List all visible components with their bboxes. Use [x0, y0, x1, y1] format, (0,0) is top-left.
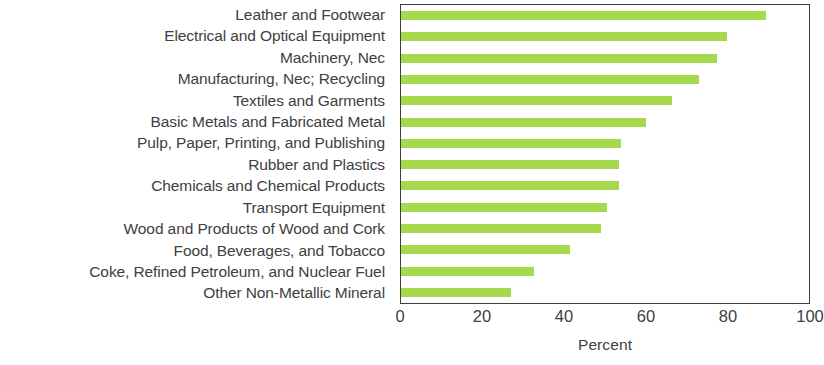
x-axis-title: Percent	[400, 336, 810, 354]
category-label: Leather and Footwear	[0, 4, 393, 25]
bar	[401, 203, 607, 212]
bar	[401, 32, 727, 41]
x-tick-label: 40	[555, 307, 573, 326]
bar	[401, 288, 511, 297]
x-axis-ticks: 020406080100	[400, 304, 810, 332]
bar-row	[401, 48, 809, 69]
category-label: Chemicals and Chemical Products	[0, 175, 393, 196]
bar-row	[401, 197, 809, 218]
bar	[401, 118, 646, 127]
bar-row	[401, 154, 809, 175]
category-label: Coke, Refined Petroleum, and Nuclear Fue…	[0, 261, 393, 282]
category-label: Other Non-Metallic Mineral	[0, 282, 393, 303]
x-tick-label: 100	[796, 307, 824, 326]
bar-row	[401, 26, 809, 47]
bar-row	[401, 133, 809, 154]
category-label: Machinery, Nec	[0, 47, 393, 68]
category-label: Transport Equipment	[0, 197, 393, 218]
category-label: Pulp, Paper, Printing, and Publishing	[0, 133, 393, 154]
category-label-column: Leather and Footwear Electrical and Opti…	[0, 4, 393, 304]
bar	[401, 54, 717, 63]
bar-row	[401, 175, 809, 196]
category-label: Manufacturing, Nec; Recycling	[0, 68, 393, 89]
bar	[401, 267, 534, 276]
bar-row	[401, 90, 809, 111]
category-label: Wood and Products of Wood and Cork	[0, 218, 393, 239]
category-label: Textiles and Garments	[0, 90, 393, 111]
bar	[401, 224, 601, 233]
bar	[401, 139, 621, 148]
bar	[401, 245, 570, 254]
bar-chart-figure: Leather and Footwear Electrical and Opti…	[0, 0, 824, 365]
bar	[401, 11, 766, 20]
bar	[401, 75, 699, 84]
bar-row	[401, 69, 809, 90]
x-tick-label: 0	[395, 307, 404, 326]
bar-row	[401, 260, 809, 281]
bar-row	[401, 111, 809, 132]
x-tick-label: 20	[473, 307, 491, 326]
bar-row	[401, 218, 809, 239]
bar-row	[401, 5, 809, 26]
bar	[401, 181, 619, 190]
x-tick-label: 80	[719, 307, 737, 326]
category-label: Food, Beverages, and Tobacco	[0, 240, 393, 261]
category-label: Basic Metals and Fabricated Metal	[0, 111, 393, 132]
bar	[401, 96, 672, 105]
bar-row	[401, 282, 809, 303]
bar-row	[401, 239, 809, 260]
x-tick-label: 60	[637, 307, 655, 326]
category-label: Electrical and Optical Equipment	[0, 25, 393, 46]
plot-area	[400, 4, 810, 304]
bar	[401, 160, 619, 169]
bar-series	[401, 5, 809, 303]
category-label: Rubber and Plastics	[0, 154, 393, 175]
